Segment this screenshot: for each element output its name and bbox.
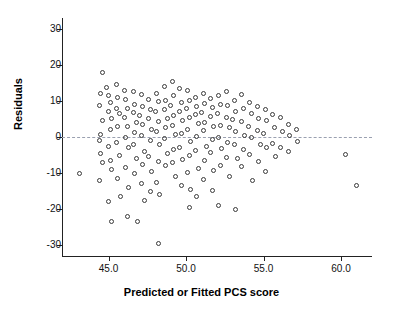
data-point	[225, 103, 230, 108]
y-axis-tick-label: 20	[21, 60, 61, 70]
data-point	[132, 130, 137, 135]
data-point	[162, 84, 167, 89]
data-point	[185, 170, 190, 175]
data-point	[193, 148, 198, 153]
data-point	[179, 131, 184, 136]
data-point	[187, 98, 192, 103]
data-point	[185, 88, 190, 93]
data-point	[264, 118, 269, 123]
data-point	[261, 131, 266, 136]
data-point	[216, 93, 221, 98]
data-point	[224, 115, 229, 120]
data-point	[247, 152, 252, 157]
data-point	[162, 136, 167, 141]
data-point	[286, 122, 291, 127]
data-point	[157, 142, 162, 147]
data-point	[114, 140, 119, 145]
x-axis-tick	[341, 256, 342, 261]
data-point	[255, 104, 260, 109]
data-point	[156, 119, 161, 124]
data-point	[270, 112, 275, 117]
data-point	[139, 133, 144, 138]
data-point	[157, 192, 162, 197]
x-axis-tick-label: 45.0	[89, 264, 129, 274]
data-point	[233, 207, 238, 212]
data-point	[97, 178, 102, 183]
data-point	[109, 167, 114, 172]
data-point	[131, 142, 136, 147]
data-point	[122, 88, 127, 93]
data-point	[235, 156, 240, 161]
data-point	[239, 119, 244, 124]
data-point	[142, 149, 147, 154]
data-point	[270, 141, 275, 146]
data-point	[193, 95, 198, 100]
data-point	[272, 125, 277, 130]
data-point	[199, 110, 204, 115]
data-point	[162, 107, 167, 112]
data-point	[239, 164, 244, 169]
data-point	[118, 194, 123, 199]
data-point	[250, 178, 255, 183]
data-point	[170, 79, 175, 84]
data-point	[273, 154, 278, 159]
data-point	[264, 145, 269, 150]
data-point	[132, 171, 137, 176]
data-point	[156, 159, 161, 164]
data-point	[139, 92, 144, 97]
data-point	[165, 116, 170, 121]
data-point	[135, 219, 140, 224]
data-point	[123, 97, 128, 102]
data-point	[210, 188, 215, 193]
data-point	[163, 163, 168, 168]
data-point	[100, 70, 105, 75]
data-point	[106, 93, 111, 98]
data-point	[126, 145, 131, 150]
data-point	[163, 125, 168, 130]
data-point	[179, 100, 184, 105]
x-axis-tick-label: 50.0	[166, 264, 206, 274]
data-point	[295, 139, 300, 144]
data-point	[142, 198, 147, 203]
data-point	[153, 109, 158, 114]
data-point	[233, 109, 238, 114]
data-point	[280, 129, 285, 134]
data-point	[115, 176, 120, 181]
data-point	[241, 147, 246, 152]
data-point	[256, 116, 261, 121]
data-point	[131, 89, 136, 94]
data-point	[263, 107, 268, 112]
data-point	[117, 111, 122, 116]
data-point	[187, 153, 192, 158]
data-point	[100, 118, 105, 123]
data-point	[246, 124, 251, 129]
data-point	[208, 114, 213, 119]
y-axis-tick-label: 0	[21, 132, 61, 142]
data-point	[97, 103, 102, 108]
data-point	[109, 219, 114, 224]
data-point	[196, 166, 201, 171]
data-point	[202, 101, 207, 106]
data-point	[196, 121, 201, 126]
data-point	[98, 151, 103, 156]
data-point	[154, 91, 159, 96]
data-point	[134, 156, 139, 161]
data-point	[216, 203, 221, 208]
data-point	[278, 115, 283, 120]
data-point	[232, 142, 237, 147]
data-point	[216, 135, 221, 140]
data-point	[194, 104, 199, 109]
data-point	[125, 124, 130, 129]
data-point	[294, 127, 299, 132]
data-point	[218, 163, 223, 168]
x-axis-label: Predicted or Fitted PCS score	[0, 286, 403, 298]
data-point	[163, 98, 168, 103]
data-point	[140, 162, 145, 167]
data-point	[187, 115, 192, 120]
data-point	[263, 169, 268, 174]
data-point	[202, 158, 207, 163]
data-point	[208, 150, 213, 155]
y-axis-tick-label: 10	[21, 96, 61, 106]
data-point	[201, 91, 206, 96]
data-point	[109, 116, 114, 121]
